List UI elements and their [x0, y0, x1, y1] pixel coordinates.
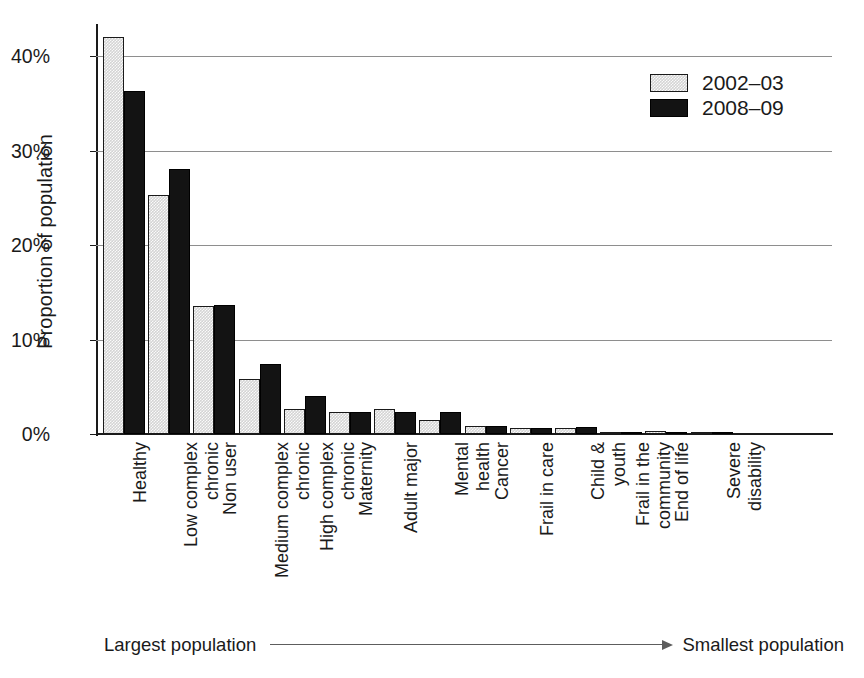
bar: [103, 37, 124, 434]
gridline: [96, 56, 832, 57]
largest-population-label: Largest population: [104, 634, 256, 656]
bar: [374, 409, 395, 434]
population-order-annotation: Largest population Smallest population: [104, 634, 844, 656]
bar: [555, 428, 576, 434]
chart-legend: 2002–032008–09: [650, 70, 830, 120]
bar: [148, 195, 169, 434]
x-axis-category-label: Low complex chronic: [181, 442, 223, 547]
y-axis-tick-label: 20%: [0, 234, 50, 257]
bar: [305, 396, 326, 434]
legend-label: 2008–09: [702, 96, 784, 120]
y-axis-tick: [90, 245, 96, 246]
rightwards-arrow-icon: [270, 639, 672, 651]
y-axis-tick: [90, 340, 96, 341]
x-axis-category-label: Mental health: [452, 442, 494, 496]
bar: [395, 412, 416, 434]
bar: [284, 409, 305, 435]
x-axis-category-label: Frail in care: [537, 442, 558, 536]
x-axis-category-label: Healthy: [130, 442, 151, 503]
bar: [193, 306, 214, 434]
bar: [260, 364, 281, 434]
bar: [239, 379, 260, 434]
bar: [465, 426, 486, 434]
bar: [419, 420, 440, 434]
x-axis-category-label: Child & youth: [588, 442, 630, 500]
x-axis-category-label: Adult major: [401, 442, 422, 533]
bar: [576, 427, 597, 434]
bar: [124, 91, 145, 434]
bar: [691, 432, 712, 435]
x-axis-category-label: End of life: [672, 442, 693, 522]
x-axis-category-label: Medium complex chronic: [272, 442, 314, 578]
bar: [440, 412, 461, 434]
bar: [169, 169, 190, 434]
y-axis-tick-label: 0%: [0, 423, 50, 446]
legend-item: 2002–03: [650, 70, 830, 95]
bar: [621, 432, 642, 435]
bar: [350, 412, 371, 434]
bar: [600, 432, 621, 435]
bar: [329, 412, 350, 434]
legend-item: 2008–09: [650, 95, 830, 120]
bar: [531, 428, 552, 434]
legend-swatch-icon: [650, 99, 688, 117]
gridline: [96, 245, 832, 246]
bar: [645, 431, 666, 434]
x-axis-category-label: Maternity: [356, 442, 377, 516]
bar: [214, 305, 235, 434]
smallest-population-label: Smallest population: [683, 634, 844, 656]
x-axis-category-label: Non user: [220, 442, 241, 515]
y-axis-tick: [90, 151, 96, 152]
y-axis-tick: [90, 56, 96, 57]
legend-label: 2002–03: [702, 71, 784, 95]
legend-swatch-icon: [650, 74, 688, 92]
bar: [486, 426, 507, 435]
bar: [666, 432, 687, 435]
y-axis-tick: [90, 434, 96, 435]
x-axis-category-label: Cancer: [492, 442, 513, 500]
x-axis-category-label: High complex chronic: [317, 442, 359, 551]
bar-chart: Proportion of population 0%10%20%30%40% …: [0, 0, 864, 678]
gridline: [96, 151, 832, 152]
y-axis-tick-label: 40%: [0, 45, 50, 68]
y-axis-tick-label: 10%: [0, 328, 50, 351]
x-axis-category-label: Frail in the community: [633, 442, 675, 529]
x-axis-category-label: Severe disability: [724, 442, 766, 511]
y-axis-tick-label: 30%: [0, 139, 50, 162]
bar: [712, 432, 733, 435]
bar: [510, 428, 531, 434]
